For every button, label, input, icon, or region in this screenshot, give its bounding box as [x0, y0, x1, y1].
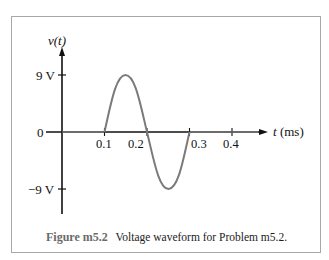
y-tick-label-neg9v: −9 V: [28, 183, 54, 196]
y-axis-label: v(t): [48, 34, 66, 47]
y-tick-label-0: 0: [37, 126, 44, 139]
x-axis-label: t (ms): [273, 125, 304, 138]
x-tick-label-0.4: 0.4: [223, 138, 239, 151]
y-tick-label-9v: 9 V: [36, 69, 55, 82]
y-axis-arrow-icon: [59, 47, 65, 56]
figure-caption-text: Voltage waveform for Problem m5.2.: [115, 231, 287, 243]
x-axis-arrow-icon: [259, 129, 268, 135]
x-tick-label-0.3: 0.3: [191, 138, 207, 151]
x-tick-label-0.2: 0.2: [128, 138, 144, 151]
figure-number: Figure m5.2: [46, 230, 108, 244]
x-axis-unit: (ms): [280, 124, 304, 139]
figure-caption: Figure m5.2 Voltage waveform for Problem…: [46, 230, 287, 245]
x-tick-label-0.1: 0.1: [96, 138, 112, 151]
